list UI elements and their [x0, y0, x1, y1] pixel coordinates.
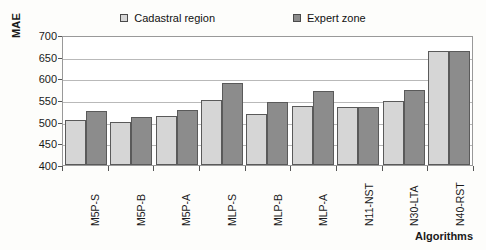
x-axis-tick-mark — [153, 166, 154, 171]
bar — [313, 91, 334, 165]
bar-group — [63, 37, 108, 165]
bar-group — [427, 37, 472, 165]
light-gray-square-icon — [120, 14, 128, 22]
dark-gray-square-icon — [293, 14, 301, 22]
bar — [449, 51, 470, 165]
bar — [156, 116, 177, 165]
plot-area — [62, 36, 473, 166]
bar-group — [199, 37, 244, 165]
legend-item-cadastral-region: Cadastral region — [120, 12, 215, 24]
x-axis-tick-mark — [290, 166, 291, 171]
x-axis-tick-label: M5P-A — [180, 194, 192, 226]
bar-chart: Cadastral region Expert zone MAE 7006506… — [0, 0, 486, 250]
x-axis-tick-label: N30-LTA — [408, 186, 420, 226]
x-axis-tick-label: N40-RST — [454, 182, 466, 226]
bar — [110, 122, 131, 165]
legend-label: Cadastral region — [134, 12, 215, 24]
x-axis-tick-mark — [382, 166, 383, 171]
y-axis-tick-label: 500 — [39, 117, 57, 129]
x-axis-tick-mark — [473, 166, 474, 171]
x-axis-tick-label: MLP-B — [272, 194, 284, 226]
bar — [267, 102, 288, 165]
x-axis-labels: M5P-SM5P-BM5P-AMLP-SMLP-BMLP-AN11-NSTN30… — [62, 172, 473, 232]
y-axis-tick-label: 700 — [39, 30, 57, 42]
x-axis-tick-mark — [245, 166, 246, 171]
y-axis-title: MAE — [10, 13, 22, 38]
y-axis-tick-mark — [58, 58, 62, 59]
x-axis-tick-label: MLP-S — [226, 194, 238, 226]
y-axis-tick-mark — [58, 123, 62, 124]
bar — [201, 100, 222, 165]
y-axis-tick-label: 550 — [39, 95, 57, 107]
legend-label: Expert zone — [307, 12, 366, 24]
bar-group — [154, 37, 199, 165]
y-axis-tick-mark — [58, 101, 62, 102]
x-axis-title: Algorithms — [415, 230, 473, 242]
x-axis-tick-mark — [199, 166, 200, 171]
plot-wrapper: 700650600550500450400 — [62, 36, 473, 166]
x-axis-tick-mark — [427, 166, 428, 171]
x-axis-tick-mark — [62, 166, 63, 171]
bar-group — [108, 37, 153, 165]
bar — [222, 83, 243, 165]
y-axis-tick-mark — [58, 36, 62, 37]
bar — [131, 117, 152, 165]
bar-group — [336, 37, 381, 165]
bar — [65, 120, 86, 166]
bar-group — [290, 37, 335, 165]
bar-group — [245, 37, 290, 165]
bar — [358, 107, 379, 165]
bar — [292, 106, 313, 165]
y-axis-tick-label: 650 — [39, 52, 57, 64]
x-axis-tick-label: N11-NST — [363, 183, 375, 226]
bar — [428, 51, 449, 165]
x-axis-tick-label: MLP-A — [317, 194, 329, 226]
y-axis-tick-label: 450 — [39, 138, 57, 150]
bar — [86, 111, 107, 165]
bar — [177, 110, 198, 165]
bar — [383, 101, 404, 165]
y-axis-tick-mark — [58, 79, 62, 80]
bar — [337, 107, 358, 166]
y-axis-tick-label: 400 — [39, 160, 57, 172]
bar-groups — [63, 37, 472, 165]
x-axis-tick-label: M5P-S — [89, 194, 101, 226]
x-axis-tick-mark — [108, 166, 109, 171]
bar — [246, 114, 267, 165]
x-axis-tick-label: M5P-B — [135, 194, 147, 226]
chart-legend: Cadastral region Expert zone — [0, 12, 486, 24]
legend-item-expert-zone: Expert zone — [293, 12, 366, 24]
bar-group — [381, 37, 426, 165]
y-axis-tick-label: 600 — [39, 73, 57, 85]
x-axis-tick-mark — [336, 166, 337, 171]
y-axis-tick-mark — [58, 144, 62, 145]
bar — [404, 90, 425, 165]
